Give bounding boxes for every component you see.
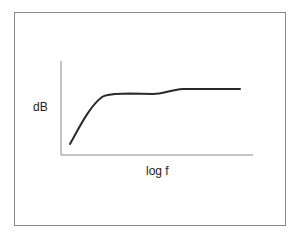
response-curve [70,89,240,144]
plot [0,0,296,236]
y-axis-label: dB [33,100,48,114]
x-axis-label: log f [146,164,169,178]
